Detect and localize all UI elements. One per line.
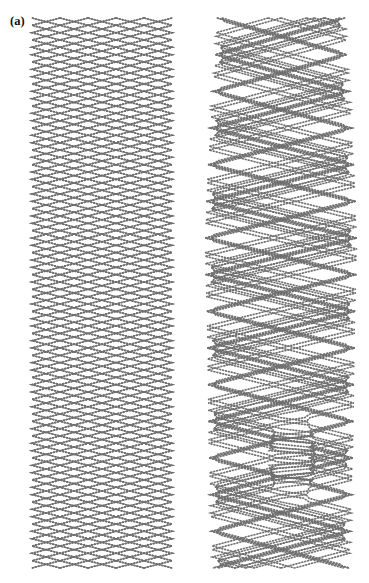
figure-container: (a) (b)	[0, 0, 369, 583]
panel-a: (a)	[0, 0, 186, 583]
braided-mesh-b	[186, 0, 369, 583]
braided-mesh-a	[0, 0, 186, 583]
panel-b: (b)	[186, 0, 369, 583]
